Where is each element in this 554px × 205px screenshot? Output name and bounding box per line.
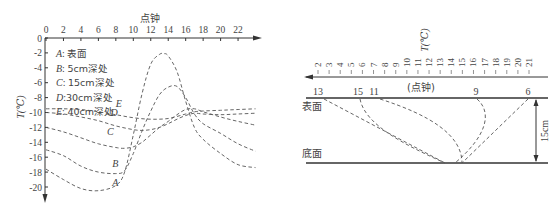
isotherm-label-13: 13 — [313, 86, 323, 97]
time-tick-label: 8 — [380, 62, 390, 67]
x-tick-label: 10 — [129, 25, 139, 35]
time-tick-label: 11 — [413, 58, 423, 67]
isotherm-label-6: 6 — [526, 86, 531, 97]
x-axis-title: 点钟 — [140, 12, 160, 24]
time-tick-label: 10 — [402, 58, 412, 68]
x-tick-label: 0 — [44, 25, 49, 35]
isotherm-11 — [380, 99, 462, 163]
time-tick-label: 4 — [335, 62, 345, 67]
x-tick-label: 18 — [198, 25, 208, 35]
y-tick-label: 0 — [37, 34, 42, 44]
time-tick-label: 5 — [346, 62, 356, 67]
isotherm-9 — [455, 99, 485, 163]
time-axis-arrow-icon — [304, 75, 313, 80]
temperature-axis-title: T(℃) — [419, 28, 431, 52]
legend-item-b: B: 5cm深处 — [56, 63, 108, 74]
x-tick-label: 2 — [61, 25, 66, 35]
y-tick-label: -12 — [29, 123, 42, 133]
x-tick-label: 4 — [79, 25, 84, 35]
curve-label-a: A — [111, 177, 119, 188]
time-tick-label: 14 — [446, 58, 456, 68]
x-tick-label: 22 — [233, 25, 243, 35]
curve-label-c: C — [107, 126, 114, 137]
depth-label: 15cm — [539, 120, 550, 142]
x-tick-label: 6 — [96, 25, 101, 35]
y-tick-label: -10 — [29, 108, 42, 118]
time-tick-label: 9 — [391, 62, 401, 67]
curve-label-e: E — [115, 98, 122, 109]
y-axis-title: T(℃) — [15, 95, 27, 119]
time-tick-label: 16 — [468, 58, 478, 68]
time-tick-label: 17 — [480, 58, 490, 68]
curve-label-b: B — [112, 158, 118, 169]
x-tick-label: 12 — [146, 25, 156, 35]
time-tick-label: 21 — [524, 58, 534, 67]
time-axis-title: (点钟) — [407, 81, 435, 93]
time-tick-label: 15 — [457, 58, 467, 68]
time-tick-label: 13 — [435, 58, 445, 68]
legend-item-e: E: 40cm深处 — [55, 106, 114, 117]
isotherm-6 — [462, 99, 528, 163]
y-axis-arrow-icon — [43, 194, 48, 203]
soil-temperature-daily-chart: 0246810121416182022点钟0-2-4-6-8-10-12-14-… — [0, 0, 280, 205]
depth-arrow-up-icon — [534, 99, 539, 106]
y-tick-label: -2 — [34, 48, 42, 58]
y-tick-label: -4 — [34, 63, 42, 73]
y-tick-label: -16 — [29, 153, 42, 163]
time-tick-label: 19 — [502, 58, 512, 68]
bottom-label: 底面 — [302, 147, 322, 159]
time-tick-label: 7 — [369, 62, 379, 67]
legend-item-c: C: 15cm深处 — [56, 77, 115, 88]
x-tick-label: 16 — [181, 25, 191, 35]
isotherm-label-11: 11 — [369, 86, 379, 97]
x-tick-label: 14 — [163, 25, 173, 35]
legend-item-a: A: 表面 — [55, 48, 87, 59]
isotherm-label-9: 9 — [474, 86, 479, 97]
x-tick-label: 8 — [113, 25, 118, 35]
time-tick-label: 3 — [324, 62, 334, 67]
time-tick-label: 18 — [491, 58, 501, 68]
curve-a — [46, 53, 256, 191]
time-tick-label: 12 — [424, 58, 434, 67]
y-tick-label: -14 — [29, 138, 42, 148]
y-tick-label: -8 — [34, 93, 42, 103]
time-tick-label: 20 — [513, 58, 523, 68]
surface-label: 表面 — [302, 100, 322, 112]
time-tick-label: 6 — [357, 62, 367, 67]
x-tick-label: 20 — [216, 25, 226, 35]
time-tick-label: 2 — [313, 63, 323, 68]
legend-item-d: D:30cm深处 — [55, 92, 113, 103]
y-tick-label: -18 — [29, 168, 42, 178]
x-axis-arrow-icon — [253, 36, 262, 41]
isotherm-label-15: 15 — [353, 86, 363, 97]
isotherm-15 — [360, 99, 445, 163]
isotherm-13 — [324, 99, 445, 163]
depth-arrow-down-icon — [534, 155, 539, 162]
y-tick-label: -6 — [34, 78, 42, 88]
y-tick-label: -20 — [29, 183, 42, 193]
